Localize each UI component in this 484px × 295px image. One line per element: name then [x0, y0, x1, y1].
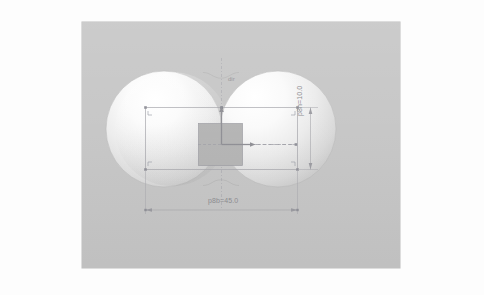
cad-scene[interactable] — [82, 22, 400, 268]
horizontal-dimension-label[interactable]: p8b=45.0 — [208, 197, 238, 204]
cad-application-window: p8b=45.0 p8h=10.0 dir — [0, 0, 484, 295]
hdim-endpoint-left[interactable] — [144, 209, 146, 211]
bottom-waist-fillet — [200, 180, 242, 196]
sketch-point-top-left[interactable] — [144, 106, 147, 109]
origin-axis-label: dir — [228, 76, 235, 82]
vertical-dimension-label[interactable]: p8h=10.0 — [296, 86, 303, 116]
top-waist-fillet — [200, 62, 242, 78]
hdim-endpoint-right[interactable] — [296, 209, 298, 211]
cad-viewport[interactable]: p8b=45.0 p8h=10.0 dir — [82, 22, 400, 268]
origin-x-endpoint[interactable] — [295, 143, 298, 146]
